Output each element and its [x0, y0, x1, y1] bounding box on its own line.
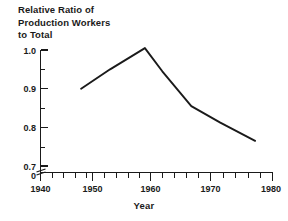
- chart-figure: Relative Ratio of Production Workers to …: [0, 0, 288, 221]
- x-axis-minor-ticks: [52, 173, 261, 178]
- x-axis-title: Year: [0, 200, 288, 211]
- y-axis-minor-ticks: [41, 69, 46, 147]
- chart-title: Relative Ratio of Production Workers to …: [18, 4, 110, 42]
- y-tick-label-0-8: 0.8: [23, 123, 36, 133]
- x-tick-label-1940: 1940: [30, 184, 50, 194]
- y-tick-label-0-9: 0.9: [23, 84, 36, 94]
- y-tick-label-zero: 0: [31, 171, 36, 181]
- x-tick-label-1960: 1960: [140, 184, 160, 194]
- x-tick-label-1970: 1970: [200, 184, 220, 194]
- data-series-line: [81, 48, 255, 141]
- y-tick-label-1-0: 1.0: [23, 46, 36, 56]
- chart-title-line-1: Relative Ratio of: [18, 4, 110, 17]
- x-tick-label-1980: 1980: [261, 184, 281, 194]
- chart-title-line-2: Production Workers: [18, 17, 110, 30]
- chart-title-line-3: to Total: [18, 29, 110, 42]
- x-tick-label-1950: 1950: [82, 184, 102, 194]
